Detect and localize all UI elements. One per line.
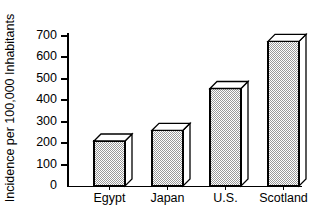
y-tick-label-200: 200 bbox=[36, 135, 57, 149]
bar-u-s bbox=[210, 82, 248, 187]
y-axis: 700 600 500 400 300 200 100 0 bbox=[36, 28, 68, 192]
y-tick-label-500: 500 bbox=[36, 71, 57, 85]
bar-japan bbox=[152, 123, 190, 186]
y-tick-label-300: 300 bbox=[36, 114, 57, 128]
bar-side-face bbox=[125, 134, 132, 186]
bar-top-face bbox=[152, 123, 190, 130]
bar-front-face bbox=[152, 130, 183, 186]
bar-top-face bbox=[210, 82, 248, 89]
bar-top-face bbox=[94, 134, 132, 141]
y-tick-group bbox=[61, 36, 68, 165]
bar-scotland bbox=[268, 34, 306, 186]
bar-top-face bbox=[268, 34, 306, 41]
y-axis-label: Incidence per 100,000 Inhabitants bbox=[3, 14, 17, 202]
bar-side-face bbox=[299, 34, 306, 186]
y-tick-label-0: 0 bbox=[50, 178, 57, 192]
y-tick-label-600: 600 bbox=[36, 49, 57, 63]
bar-side-face bbox=[241, 82, 248, 187]
x-axis-label-1: Egypt bbox=[94, 191, 126, 205]
y-tick-label-400: 400 bbox=[36, 92, 57, 106]
bar-side-face bbox=[183, 123, 190, 186]
category-labels: EgyptJapanU.S.Scotland bbox=[94, 186, 308, 205]
y-tick-labels: 700 600 500 400 300 200 100 0 bbox=[36, 28, 57, 192]
bar-front-face bbox=[210, 89, 241, 187]
y-tick-label-100: 100 bbox=[36, 157, 57, 171]
bar-front-face bbox=[94, 141, 125, 186]
bar-chart: Incidence per 100,000 Inhabitants 700 60… bbox=[0, 0, 310, 214]
x-axis-label-4: Scotland bbox=[259, 191, 308, 205]
y-tick-label-700: 700 bbox=[36, 28, 57, 42]
chart-canvas: Incidence per 100,000 Inhabitants 700 60… bbox=[0, 0, 310, 214]
bar-egypt bbox=[94, 134, 132, 186]
x-axis-label-3: U.S. bbox=[213, 191, 237, 205]
y-axis-label-group: Incidence per 100,000 Inhabitants bbox=[3, 14, 17, 202]
x-axis-label-2: Japan bbox=[150, 191, 184, 205]
bars-layer bbox=[94, 34, 306, 186]
bar-front-face bbox=[268, 41, 299, 186]
